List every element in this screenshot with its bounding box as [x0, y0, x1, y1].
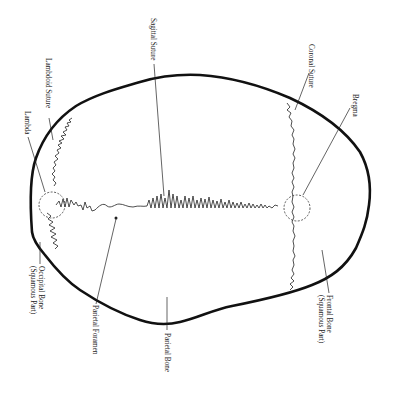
label-occipital-bone-sub: (Squamous Part) — [29, 266, 37, 315]
label-parietal-bone: Parietal Bone — [163, 333, 171, 372]
label-lambda: Lambda — [23, 111, 31, 135]
lambdoid-suture-line — [47, 118, 72, 249]
skull-superior-view-diagram: Sagittal Suture Lambdoid Suture Lambda C… — [0, 0, 395, 402]
parietal-foramen-leader — [96, 219, 116, 304]
label-coronal-suture: Coronal Suture — [307, 44, 315, 88]
label-sagittal-suture: Sagittal Suture — [149, 18, 157, 61]
label-parietal-foramen: Parietal Foramen — [91, 305, 99, 355]
bregma-landmark-circle — [284, 195, 310, 221]
sagittal-suture-leader — [154, 64, 164, 196]
bregma-leader — [303, 108, 350, 195]
label-lambdoid-suture: Lambdoid Suture — [44, 58, 52, 108]
label-bregma: Bregma — [351, 94, 359, 118]
frontal-bone-leader — [322, 250, 329, 293]
label-frontal-bone-sub: (Squamous Part) — [317, 295, 325, 344]
label-occipital-bone: Occipital Bone — [37, 266, 45, 309]
sagittal-suture-line — [56, 190, 278, 211]
coronal-suture-line — [287, 103, 295, 290]
label-frontal-bone: Frontal Bone — [325, 295, 333, 333]
